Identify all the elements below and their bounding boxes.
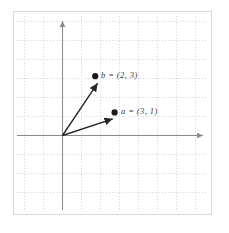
grid-vertical-lines — [25, 16, 196, 211]
vector-b-shaft — [63, 83, 98, 135]
vector-plot-figure: b = (2, 3) a = (3, 1) — [0, 0, 229, 233]
vector-b — [63, 73, 99, 135]
point-b — [92, 73, 98, 79]
axis-lines — [17, 21, 203, 210]
vector-a-shaft — [63, 119, 113, 136]
plot-canvas — [0, 0, 229, 233]
vector-b-label: b = (2, 3) — [101, 70, 138, 80]
grid-horizontal-lines — [16, 22, 208, 193]
vector-a-label: a = (3, 1) — [121, 106, 158, 116]
point-a — [112, 109, 118, 115]
